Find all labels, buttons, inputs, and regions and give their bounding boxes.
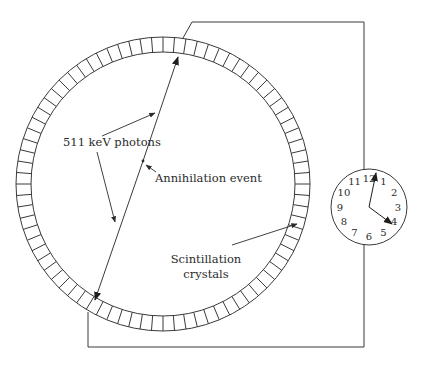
clock-number: 11 — [348, 176, 361, 187]
clock-number: 7 — [351, 227, 357, 238]
crystal-divider — [263, 270, 274, 280]
crystal-divider — [295, 194, 310, 195]
crystal-divider — [23, 139, 37, 144]
crystal-divider — [293, 205, 308, 207]
clock-number: 3 — [395, 202, 401, 213]
crystal-divider — [281, 244, 294, 251]
crystal-divider — [38, 107, 51, 115]
crystal-divider — [232, 297, 240, 310]
crystal-divider — [51, 270, 62, 280]
crystal-divider — [18, 161, 33, 163]
photon-path-opposite — [95, 161, 143, 300]
crystal-divider — [77, 65, 86, 77]
crystal-divider — [18, 205, 33, 207]
crystal-divider — [173, 316, 174, 331]
crystal-divider — [291, 215, 306, 219]
crystal-divider — [86, 59, 94, 72]
crystal-divider — [194, 41, 198, 56]
clock-number: 5 — [380, 227, 386, 238]
crystal-divider — [59, 277, 70, 288]
crystal-divider — [118, 310, 123, 324]
pet-diagram: 511 keV photons Annihilation event Scint… — [0, 0, 425, 365]
clock-number: 2 — [391, 187, 397, 198]
annihilation-label: Annihilation event — [154, 171, 262, 185]
crystal-divider — [96, 302, 103, 315]
crystal-divider — [32, 117, 45, 124]
crystal-divider — [140, 39, 142, 54]
crystal-divider — [86, 297, 94, 310]
crystal-divider — [204, 44, 209, 58]
crystal-divider — [295, 172, 310, 173]
crystal-divider — [107, 48, 113, 62]
photons-label: 511 keV photons — [63, 135, 161, 149]
crystal-divider — [223, 53, 230, 66]
crystal-divider — [20, 215, 35, 219]
crystal-divider — [184, 39, 186, 54]
crystals-label-line1: Scintillation — [171, 252, 242, 266]
crystal-divider — [291, 150, 306, 154]
crystal-divider — [270, 98, 282, 107]
crystal-divider — [44, 262, 56, 271]
crystal-divider — [276, 253, 289, 261]
clock-number: 12 — [363, 173, 376, 184]
clock-number: 4 — [391, 216, 397, 227]
clock-number: 1 — [380, 176, 386, 187]
crystals-label-line2: crystals — [183, 267, 228, 281]
crystal-divider — [270, 262, 282, 271]
clock-number: 9 — [337, 202, 343, 213]
crystal-divider — [276, 107, 289, 115]
crystal-divider — [223, 302, 230, 315]
crystal-divider — [241, 65, 250, 77]
crystal-divider — [27, 235, 41, 241]
top-wire — [183, 22, 364, 170]
crystal-divider — [44, 98, 56, 107]
crystal-divider — [59, 80, 70, 91]
crystal-divider — [140, 314, 142, 329]
crystal-divider — [289, 139, 303, 144]
crystal-divider — [96, 53, 103, 66]
crystal-divider — [204, 310, 209, 324]
crystal-divider — [249, 72, 259, 83]
crystal-divider — [249, 284, 259, 295]
crystal-divider — [23, 225, 37, 230]
crystal-divider — [118, 44, 123, 58]
crystal-divider — [51, 89, 62, 99]
crystal-divider — [16, 172, 31, 173]
crystal-divider — [263, 89, 274, 99]
crystal-divider — [32, 244, 45, 251]
crystal-divider — [16, 194, 31, 195]
crystal-divider — [20, 150, 35, 154]
crystal-divider — [285, 128, 299, 134]
clock-number: 10 — [338, 187, 351, 198]
crystal-divider — [151, 316, 152, 331]
crystal-divider — [256, 80, 267, 91]
crystal-divider — [214, 48, 220, 62]
crystal-divider — [184, 314, 186, 329]
crystal-divider — [68, 284, 78, 295]
crystal-divider — [241, 291, 250, 303]
crystal-divider — [38, 253, 51, 261]
crystals-arrow — [232, 224, 297, 245]
photons-arrow-upper — [102, 113, 155, 136]
clock-number: 6 — [366, 231, 372, 242]
crystal-divider — [232, 59, 240, 72]
crystal-divider — [214, 306, 220, 320]
crystal-divider — [281, 117, 294, 124]
photons-arrow-lower — [97, 152, 115, 222]
crystal-divider — [173, 37, 174, 52]
crystal-divider — [194, 312, 198, 327]
crystal-divider — [27, 128, 41, 134]
crystal-divider — [68, 72, 78, 83]
crystal-divider — [129, 41, 133, 56]
coincidence-clock: 121234567891011 — [331, 169, 407, 245]
crystal-divider — [293, 161, 308, 163]
crystal-divider — [289, 225, 303, 230]
crystal-divider — [285, 235, 299, 241]
crystal-divider — [256, 277, 267, 288]
crystal-divider — [77, 291, 86, 303]
clock-number: 8 — [341, 216, 347, 227]
annihilation-point — [142, 160, 145, 163]
crystal-divider — [107, 306, 113, 320]
crystal-divider — [129, 312, 133, 327]
crystal-divider — [151, 37, 152, 52]
